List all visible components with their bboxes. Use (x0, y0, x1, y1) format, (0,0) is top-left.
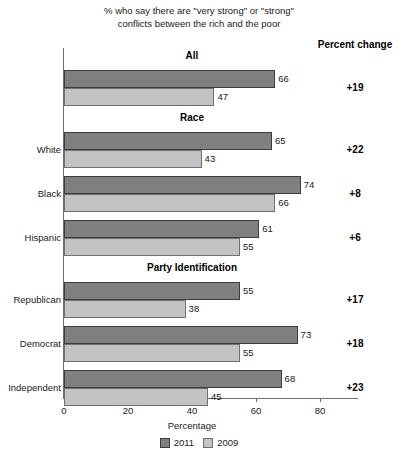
section-heading-all: All (64, 50, 320, 61)
percent-change-white: +22 (312, 144, 398, 155)
bar-2011-republican[interactable] (64, 282, 240, 300)
bar-2011-all[interactable] (64, 70, 275, 88)
bar-2011-democrat[interactable] (64, 326, 298, 344)
bar-2009-independent[interactable] (64, 388, 208, 406)
x-tick-80 (320, 398, 321, 402)
legend-item-2011[interactable]: 2011 (160, 437, 194, 448)
bar-2009-republican[interactable] (64, 300, 186, 318)
x-tick-label-60: 60 (241, 405, 271, 416)
bar-2011-white[interactable] (64, 132, 272, 150)
x-tick-label-80: 80 (305, 405, 335, 416)
bar-value-2009-black: 66 (278, 197, 289, 208)
x-tick-label-20: 20 (113, 405, 143, 416)
bar-value-2011-republican: 55 (243, 285, 254, 296)
percent-change-hispanic: +6 (312, 232, 398, 243)
category-label-black: Black (0, 188, 64, 199)
x-tick-60 (256, 398, 257, 402)
percent-change-column-header: Percent change (312, 39, 398, 50)
legend-label-2011: 2011 (174, 437, 194, 448)
percent-change-black: +8 (312, 188, 398, 199)
chart-title-line-1: % who say there are "very strong" or "st… (0, 4, 398, 17)
bar-value-2009-independent: 45 (211, 391, 222, 402)
bar-value-2009-hispanic: 55 (243, 241, 254, 252)
legend-swatch-2009 (203, 438, 213, 448)
x-tick-label-40: 40 (177, 405, 207, 416)
bar-value-2011-all: 66 (278, 73, 289, 84)
percent-change-all: +19 (312, 82, 398, 93)
section-heading-race: Race (64, 112, 320, 123)
category-label-hispanic: Hispanic (0, 232, 64, 243)
bar-2009-hispanic[interactable] (64, 238, 240, 256)
legend-item-2009[interactable]: 2009 (203, 437, 238, 448)
section-heading-party-identification: Party Identification (64, 262, 320, 273)
percent-change-republican: +17 (312, 294, 398, 305)
category-label-republican: Republican (0, 294, 64, 305)
chart-title: % who say there are "very strong" or "st… (0, 4, 398, 30)
bar-value-2009-democrat: 55 (243, 347, 254, 358)
bar-value-2009-republican: 38 (189, 303, 200, 314)
x-axis-title: Percentage (64, 420, 320, 431)
category-label-independent: Independent (0, 382, 64, 393)
bar-value-2011-independent: 68 (285, 373, 296, 384)
legend-label-2009: 2009 (217, 437, 238, 448)
bar-value-2011-white: 65 (275, 135, 286, 146)
chart-title-line-2: conflicts between the rich and the poor (0, 17, 398, 30)
x-tick-label-0: 0 (49, 405, 79, 416)
category-label-democrat: Democrat (0, 338, 64, 349)
bar-2011-black[interactable] (64, 176, 301, 194)
bar-2009-white[interactable] (64, 150, 202, 168)
bar-2009-black[interactable] (64, 194, 275, 212)
bar-value-2009-white: 43 (205, 153, 216, 164)
chart-legend: 20112009 (0, 437, 398, 448)
category-label-white: White (0, 144, 64, 155)
percent-change-democrat: +18 (312, 338, 398, 349)
bar-value-2011-hispanic: 61 (262, 223, 273, 234)
legend-swatch-2011 (160, 438, 170, 448)
bar-2011-independent[interactable] (64, 370, 282, 388)
bar-2009-all[interactable] (64, 88, 214, 106)
bar-value-2011-democrat: 73 (301, 329, 312, 340)
plot-area: 020406080 6647654374666155553873556845 (64, 48, 320, 398)
bar-2009-democrat[interactable] (64, 344, 240, 362)
bar-value-2009-all: 47 (217, 91, 228, 102)
bar-2011-hispanic[interactable] (64, 220, 259, 238)
percent-change-independent: +23 (312, 382, 398, 393)
